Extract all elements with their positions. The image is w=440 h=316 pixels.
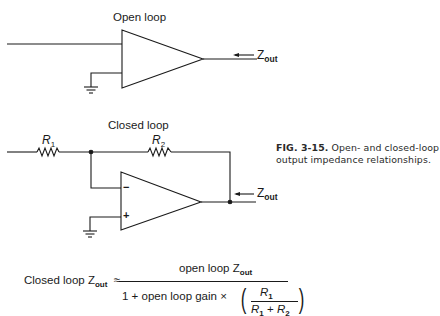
formula-lhs-text: Closed loop Z [24,274,95,286]
formula-lhs-sub: out [95,280,107,289]
zout-sub: out [264,54,277,64]
closed-loop-op-amp-triangle [121,172,201,230]
inverting-input-sign: − [123,181,129,193]
non-inverting-input-sign: + [123,209,129,221]
figure-number: FIG. 3-15. [276,142,328,153]
closed-loop-zout-label: Zout [257,186,278,202]
r2-sub: 2 [161,140,165,149]
open-loop-op-amp-triangle [122,30,203,88]
output-node [228,200,232,204]
r1-sub: 1 [51,140,55,149]
ratio-num-sub: 1 [268,292,272,301]
closed-loop-zout-arrow-icon [234,192,254,196]
open-loop-title: Open loop [113,11,166,23]
zout-sub: out [264,192,277,202]
closed-loop-title: Closed loop [108,119,169,131]
ratio-numerator: R1 [260,286,273,301]
closed-loop-ground-icon [83,231,97,237]
formula-lhs: Closed loop Zout ≈ [24,274,120,289]
open-loop-ground-icon [84,87,98,93]
figure-caption: FIG. 3-15. Open- and closed-loop output … [276,142,440,166]
open-loop-zout-arrow-icon [233,53,254,57]
r2-letter: R [152,133,161,147]
numerator-text: open loop Z [179,262,240,274]
fraction-bar [119,281,288,282]
closed-loop-circuit [7,148,256,237]
approx-symbol: ≈ [114,274,120,286]
ratio-denominator: R1 + R2 [251,303,290,316]
r1-letter: R [42,133,51,147]
r2-label: R2 [152,133,165,149]
open-loop-ground-wire [91,73,122,87]
open-loop-circuit [7,30,257,93]
r1-label: R1 [42,133,55,149]
ratio-bar [251,301,298,302]
right-paren: ) [299,284,305,314]
non-inverting-ground-wire [90,217,121,231]
ratio-den-b: R [277,303,285,315]
formula-numerator: open loop Zout [179,262,252,277]
inverting-input-wire [91,152,121,188]
numerator-sub: out [240,268,252,277]
left-paren: ( [241,284,247,314]
open-loop-zout-label: Zout [257,48,278,64]
ratio-den-plus: + [264,303,277,315]
formula-denominator: 1 + open loop gain × [122,290,227,302]
ratio-den-b-sub: 2 [285,309,289,316]
